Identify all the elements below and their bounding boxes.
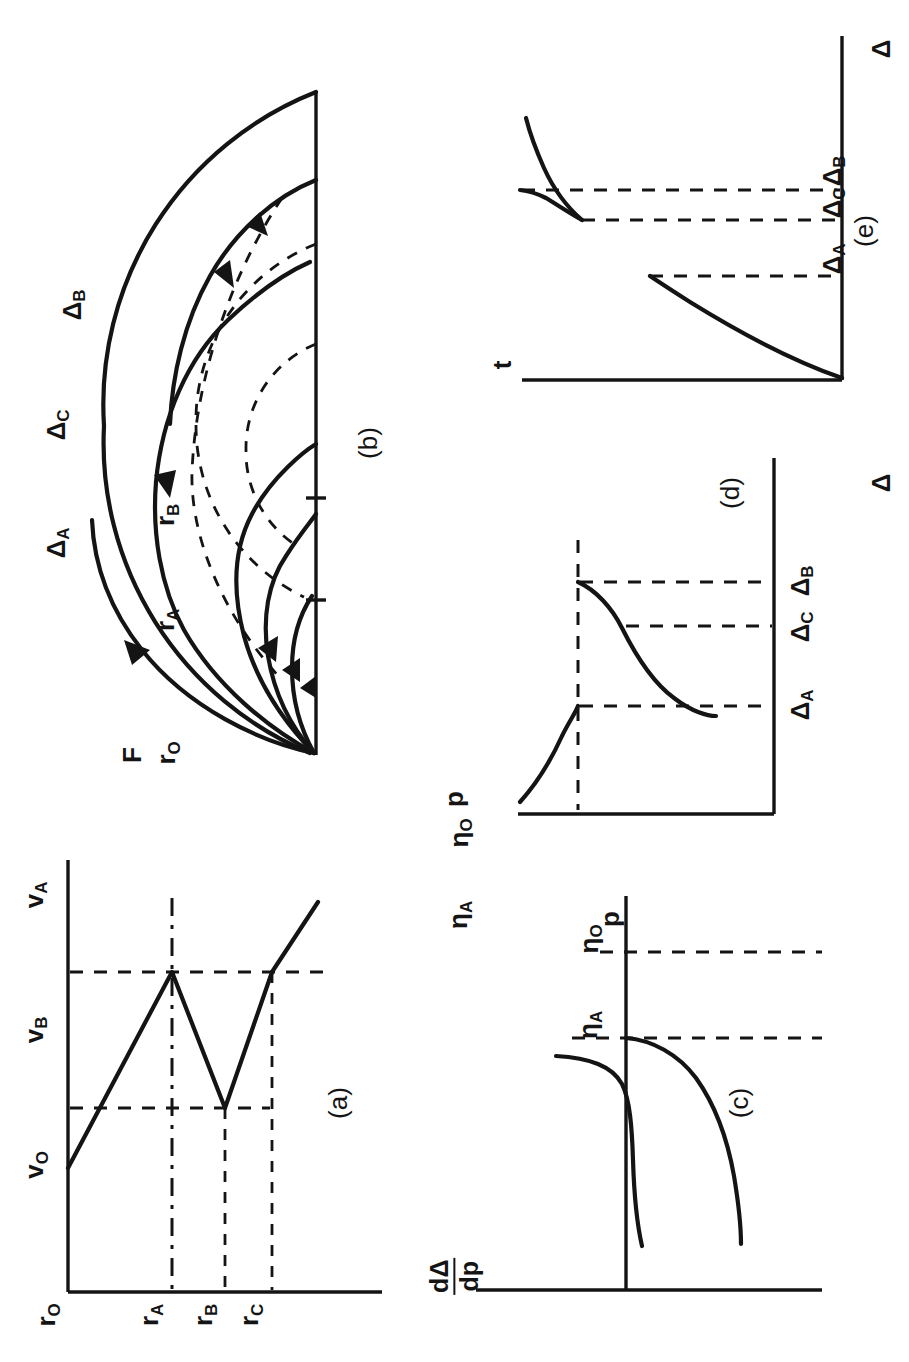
panel-a-label-vb: vB [21, 1017, 51, 1044]
panel-d-axis-label-delta: Δ [868, 474, 894, 493]
panel-d-axes [518, 458, 774, 814]
panel-b-label-delta-a: ΔA [43, 527, 73, 558]
panel-e-caption: (e) [851, 215, 877, 247]
panel-b-rays [92, 180, 316, 753]
panel-b-label-ra: rA [152, 609, 182, 631]
panel-d-label-delta-c: ΔC [787, 611, 817, 642]
panel-c-guides [572, 952, 822, 1038]
panel-e-axis-label-delta: Δ [868, 40, 894, 59]
panel-d-guides [578, 540, 772, 810]
panel-d-label-delta-a: ΔA [787, 689, 817, 720]
panel-b-caption: (b) [355, 427, 381, 459]
panel-b-arc-ra [246, 344, 316, 548]
panel-a-curve [68, 902, 318, 1168]
panel-a-caption: (a) [325, 1087, 351, 1119]
panel-d-curves [520, 582, 716, 802]
panel-a-label-r0: rO [33, 1303, 63, 1326]
panel-e-curves [520, 118, 842, 378]
panel-c-frac-numerator: dΔ [426, 1258, 455, 1295]
panel-c-caption: (c) [726, 1088, 752, 1118]
panel-e-guides [522, 190, 840, 276]
panel-c-label-eta-o: ηO [576, 924, 606, 953]
panel-c-axes [476, 896, 822, 1290]
figure-root: vO vB vA rO rA rB rC (a) [0, 0, 909, 1362]
panel-d-label-eta-a: ηA [445, 901, 475, 929]
panel-b-graphic [20, 20, 460, 800]
panel-b-label-focus: F [119, 747, 145, 763]
panel-b-label-rb: rB [152, 504, 182, 526]
panel-c-axis-label-p: p [597, 911, 623, 927]
panel-d-axis-label-p: p [441, 791, 467, 807]
panel-c-curves [556, 1038, 741, 1246]
panel-c-axis-label-ddelta-dp: dΔ dp [426, 1258, 483, 1295]
panel-d-graphic [430, 430, 830, 840]
panel-c-frac-denominator: dp [456, 1258, 483, 1295]
panel-a-label-va: vA [21, 882, 51, 909]
panel-b-label-delta-c: ΔC [43, 409, 73, 440]
panel-e-axis-label-t: t [489, 361, 515, 370]
panel-c-label-eta-a: ηA [575, 1011, 605, 1039]
panel-a-label-ra: rA [136, 1304, 166, 1326]
panel-a-label-rb: rB [190, 1304, 220, 1326]
panel-b-label-r0: rO [153, 741, 183, 764]
panel-c-graphic [430, 860, 830, 1362]
panel-d-label-eta-o: ηO [446, 818, 476, 847]
panel-a-label-rc: rC [236, 1304, 266, 1326]
panel-b-label-delta-b: ΔB [59, 289, 89, 320]
panel-e-label-delta-b: ΔB [819, 155, 849, 186]
panel-d-label-delta-b: ΔB [787, 565, 817, 596]
panel-a-label-v0: vO [21, 1151, 51, 1179]
panel-e-label-delta-a: ΔA [819, 243, 849, 274]
panel-d-caption: (d) [717, 477, 743, 509]
panel-e-label-delta-c: ΔC [819, 187, 849, 218]
